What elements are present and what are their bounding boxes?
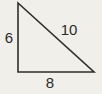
geometry-diagram: 6 10 8 [0, 0, 102, 94]
triangle-figure: 6 10 8 [0, 0, 102, 94]
side-label-hypotenuse: 10 [61, 21, 78, 38]
side-label-vertical-leg: 6 [5, 29, 13, 46]
side-label-horizontal-leg: 8 [46, 74, 54, 91]
